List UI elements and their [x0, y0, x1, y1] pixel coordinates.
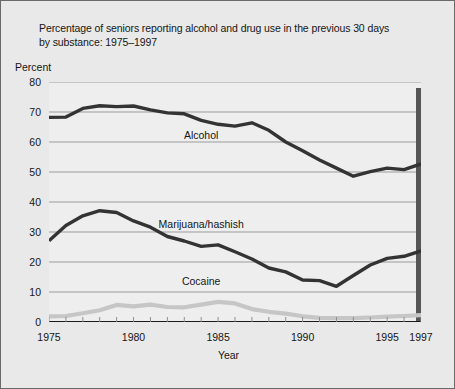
series-label-cocaine: Cocaine — [182, 275, 221, 287]
x-tick-label-1985: 1985 — [206, 331, 229, 343]
y-tick-label-60: 60 — [11, 136, 41, 148]
chart-title: Percentage of seniors reporting alcohol … — [39, 21, 439, 49]
y-tick-label-10: 10 — [11, 286, 41, 298]
y-axis-unit-label: Percent — [15, 61, 51, 73]
x-tick-label-1975: 1975 — [37, 331, 60, 343]
y-tick-label-0: 0 — [11, 316, 41, 328]
y-tick-label-80: 80 — [11, 76, 41, 88]
y-tick-label-20: 20 — [11, 256, 41, 268]
plot-svg — [49, 82, 421, 322]
y-tick-label-30: 30 — [11, 226, 41, 238]
y-tick-label-40: 40 — [11, 196, 41, 208]
series-label-alcohol: Alcohol — [184, 129, 218, 141]
x-tick-label-1995: 1995 — [375, 331, 398, 343]
y-tick-label-70: 70 — [11, 106, 41, 118]
x-tick-label-1980: 1980 — [122, 331, 145, 343]
series-label-marijuana-hashish: Marijuana/hashish — [159, 218, 244, 230]
chart-title-line-2: by substance: 1975–1997 — [39, 35, 439, 49]
x-tick-label-1997: 1997 — [409, 331, 432, 343]
plot-area — [49, 82, 421, 322]
x-axis-title: Year — [1, 349, 455, 361]
y-tick-label-50: 50 — [11, 166, 41, 178]
chart-title-line-1: Percentage of seniors reporting alcohol … — [39, 21, 439, 35]
x-tick-label-1990: 1990 — [291, 331, 314, 343]
chart-figure: Percentage of seniors reporting alcohol … — [0, 0, 455, 389]
